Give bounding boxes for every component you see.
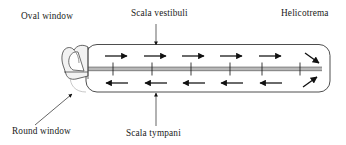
cochlea-diagram: [0, 0, 346, 145]
label-scala-vestibuli: Scala vestibuli: [131, 9, 188, 18]
label-helicotrema: Helicotrema: [281, 9, 329, 18]
basilar-membrane: [70, 67, 322, 71]
leader-round-window: [35, 94, 72, 125]
stapes-oval-window: [62, 45, 88, 79]
label-round-window: Round window: [12, 127, 71, 136]
helicotrema-arrow-lower: [303, 77, 317, 87]
label-scala-tympani: Scala tympani: [126, 129, 181, 138]
helicotrema-arrow-upper: [305, 53, 319, 63]
label-oval-window: Oval window: [21, 12, 73, 21]
